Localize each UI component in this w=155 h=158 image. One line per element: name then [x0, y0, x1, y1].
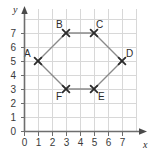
tick-marks — [21, 34, 123, 136]
y-tick-label: 7 — [10, 28, 16, 39]
y-tick-label: 1 — [10, 112, 16, 123]
vertex-label-e: E — [98, 91, 105, 102]
x-tick-label: 6 — [106, 137, 112, 148]
x-tick-label: 5 — [92, 137, 98, 148]
y-tick-label: 6 — [10, 42, 16, 53]
x-tick-label: 2 — [50, 137, 56, 148]
x-tick-label: 3 — [64, 137, 70, 148]
vertex-label-c: C — [96, 19, 103, 30]
x-tick-labels: 0 1 2 3 4 5 6 7 — [22, 137, 126, 148]
y-tick-label: 2 — [10, 98, 16, 109]
y-tick-label: 3 — [10, 84, 16, 95]
y-axis-label: y — [12, 4, 18, 15]
vertex-label-d: D — [126, 48, 133, 59]
grid-lines — [25, 9, 137, 132]
hexagon-plot: A B C D E F — [0, 0, 155, 158]
vertex-label-f: F — [56, 91, 62, 102]
y-axis-arrow-icon — [21, 6, 27, 14]
x-tick-label: 1 — [36, 137, 42, 148]
x-tick-label: 7 — [120, 137, 126, 148]
x-axis-label: x — [142, 139, 148, 150]
y-tick-label: 0 — [10, 126, 16, 137]
x-tick-label: 4 — [78, 137, 84, 148]
y-tick-label: 5 — [10, 56, 16, 67]
x-tick-label: 0 — [22, 137, 28, 148]
coordinate-plane-figure: A B C D E F — [0, 0, 155, 158]
y-tick-label: 4 — [10, 70, 16, 81]
y-tick-labels: 0 1 2 3 4 5 6 7 — [10, 28, 16, 137]
axis-lines — [21, 6, 147, 135]
x-axis-arrow-icon — [139, 128, 147, 134]
vertex-label-b: B — [56, 19, 63, 30]
